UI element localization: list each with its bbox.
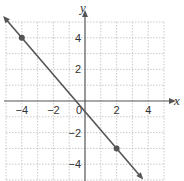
x-tick-label: 4 [145, 104, 151, 116]
data-point [19, 35, 25, 41]
x-axis-label: x [173, 93, 180, 108]
plotted-line [4, 18, 141, 178]
data-series [3, 16, 143, 179]
x-tick-label: −2 [47, 104, 60, 116]
x-tick-label: −4 [16, 104, 29, 116]
y-axis-label: y [78, 0, 86, 15]
chart: −4−22442−2−40 x y [0, 0, 184, 181]
x-tick-label: 2 [114, 104, 120, 116]
y-tick-label: 2 [75, 63, 81, 75]
y-tick-label: −4 [68, 158, 81, 170]
data-point [114, 145, 120, 151]
y-tick-label: 4 [75, 32, 81, 44]
y-tick-label: −2 [68, 127, 81, 139]
coordinate-plane: −4−22442−2−40 x y [0, 0, 184, 181]
axes [4, 10, 176, 181]
